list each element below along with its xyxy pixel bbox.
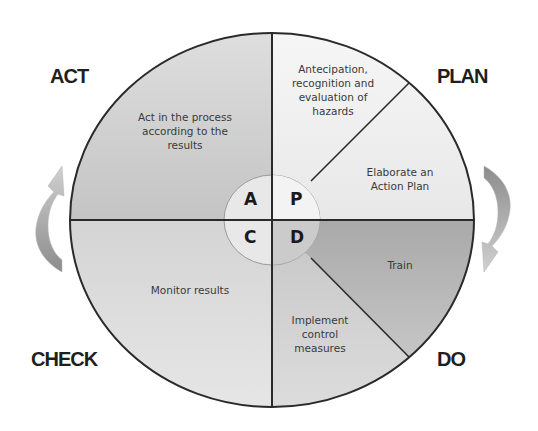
pdca-diagram: ACT PLAN CHECK DO A P C D Act in the pro…	[0, 0, 538, 431]
check-segment-text: Monitor results	[120, 283, 260, 297]
text-line: Antecipation,	[278, 62, 388, 76]
text-line: Train	[370, 258, 430, 272]
text-line: according to the	[115, 124, 255, 138]
do-implement-segment-text: Implement control measures	[275, 313, 365, 355]
text-line: Implement	[275, 313, 365, 327]
center-letter-d: D	[290, 227, 304, 247]
text-line: Elaborate an	[350, 165, 450, 179]
center-letter-c: C	[244, 227, 256, 247]
plan-hazards-segment-text: Antecipation, recognition and evaluation…	[278, 62, 388, 118]
cycle-arrow-up-icon	[36, 166, 64, 272]
cycle-arrow-down-icon	[482, 166, 510, 272]
text-line: Monitor results	[120, 283, 260, 297]
text-line: results	[115, 138, 255, 152]
text-line: evaluation of	[278, 90, 388, 104]
do-train-segment-text: Train	[370, 258, 430, 272]
center-letter-a: A	[244, 189, 257, 209]
text-line: measures	[275, 341, 365, 355]
center-letter-p: P	[290, 189, 302, 209]
phase-label-act: ACT	[50, 65, 88, 88]
phase-label-plan: PLAN	[437, 65, 487, 88]
text-line: Act in the process	[115, 110, 255, 124]
phase-label-do: DO	[437, 348, 465, 371]
text-line: Action Plan	[350, 179, 450, 193]
text-line: recognition and	[278, 76, 388, 90]
act-segment-text: Act in the process according to the resu…	[115, 110, 255, 152]
text-line: hazards	[278, 104, 388, 118]
text-line: control	[275, 327, 365, 341]
plan-action-segment-text: Elaborate an Action Plan	[350, 165, 450, 193]
phase-label-check: CHECK	[31, 348, 97, 371]
